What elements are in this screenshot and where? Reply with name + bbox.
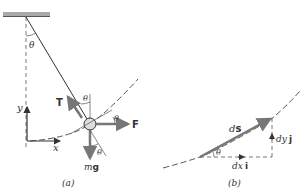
force-angle-label: θ xyxy=(114,114,119,123)
weight-angle-label: θ xyxy=(97,148,102,157)
tension-angle-label: θ xyxy=(83,94,88,103)
figure-b-caption: (b) xyxy=(228,178,241,188)
trajectory-arc xyxy=(30,79,138,141)
pivot-angle-arc xyxy=(26,33,36,36)
dx-label: dx i xyxy=(232,161,248,171)
force-label: F xyxy=(132,119,139,130)
weight-label: mg xyxy=(84,162,99,172)
pendulum-diagram: θ y x T θ F θ θ mg (a) xyxy=(0,0,306,194)
y-axis-label: y xyxy=(16,102,23,113)
ceiling-support xyxy=(3,12,50,16)
dy-label: dy j xyxy=(276,134,292,144)
figure-b: ds dx i dy j θ (b) xyxy=(163,91,300,188)
ds-angle-label: θ xyxy=(216,148,221,157)
x-axis-label: x xyxy=(53,142,59,153)
figure-a-caption: (a) xyxy=(62,178,75,188)
pivot-angle-label: θ xyxy=(29,40,35,50)
ds-label: ds xyxy=(229,123,241,134)
figure-a: θ y x T θ F θ θ mg (a) xyxy=(3,12,139,188)
tension-label: T xyxy=(56,97,63,108)
